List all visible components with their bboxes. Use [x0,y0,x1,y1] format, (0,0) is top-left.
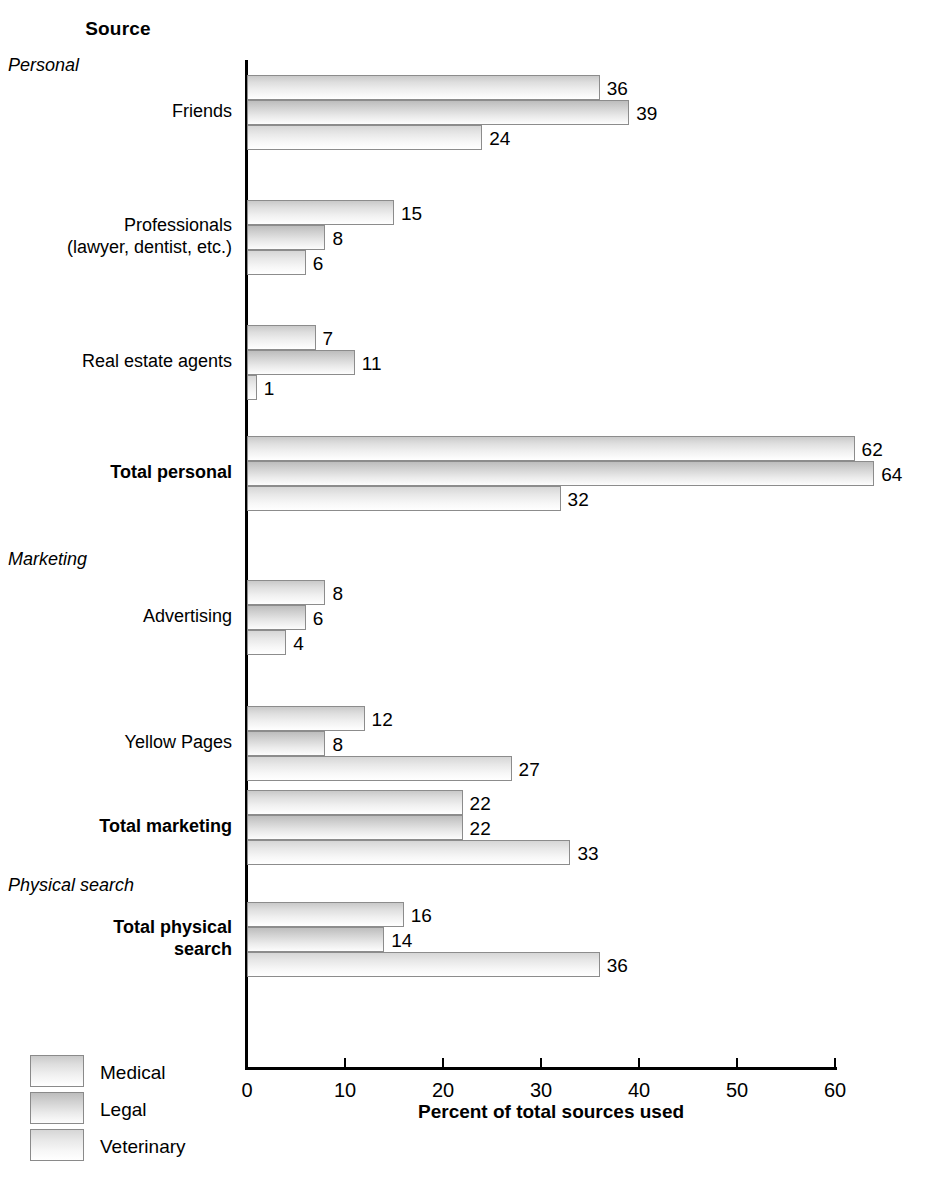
bar-value-label: 36 [607,956,628,975]
bar-legal-4 [247,605,306,630]
bar-value-label: 15 [401,204,422,223]
bar-value-label: 33 [577,844,598,863]
legend-swatch-veterinary [30,1129,84,1161]
x-axis-line [245,1067,837,1070]
bar-value-label: 6 [313,254,324,273]
x-axis-tick [442,1058,444,1067]
bar-veterinary-5 [247,756,512,781]
bar-value-label: 6 [313,609,324,628]
bar-legal-1 [247,225,325,250]
bar-value-label: 24 [489,129,510,148]
bar-value-label: 11 [362,354,382,373]
legend-label-veterinary: Veterinary [100,1137,186,1156]
plot-area: 0102030405060Percent of total sources us… [0,0,937,1199]
bar-medical-3 [247,436,855,461]
bar-value-label: 1 [264,379,275,398]
bar-medical-6 [247,790,463,815]
legend-label-legal: Legal [100,1100,147,1119]
x-axis-tick [540,1058,542,1067]
x-axis-tick [344,1058,346,1067]
x-axis-tick-label: 30 [521,1079,561,1102]
x-axis-tick-label: 0 [227,1079,267,1102]
bar-value-label: 4 [293,634,304,653]
bar-veterinary-1 [247,250,306,275]
bar-value-label: 22 [470,794,491,813]
bar-veterinary-2 [247,375,257,400]
x-axis-tick-label: 20 [423,1079,463,1102]
bar-legal-0 [247,100,629,125]
bar-legal-6 [247,815,463,840]
bar-value-label: 8 [332,735,343,754]
x-axis-tick-label: 10 [325,1079,365,1102]
bar-medical-0 [247,75,600,100]
bar-veterinary-0 [247,125,482,150]
x-axis-tick [736,1058,738,1067]
bar-value-label: 32 [568,490,589,509]
x-axis-tick-label: 50 [717,1079,757,1102]
legend-swatch-legal [30,1092,84,1124]
bar-legal-7 [247,927,384,952]
bar-value-label: 27 [519,760,540,779]
bar-value-label: 36 [607,79,628,98]
bar-medical-4 [247,580,325,605]
legend-swatch-medical [30,1055,84,1087]
bar-value-label: 14 [391,931,412,950]
legend-label-medical: Medical [100,1063,165,1082]
x-axis-tick-label: 40 [619,1079,659,1102]
bar-legal-2 [247,350,355,375]
x-axis-tick-label: 60 [815,1079,855,1102]
x-axis-title: Percent of total sources used [418,1101,684,1123]
bar-medical-1 [247,200,394,225]
bar-veterinary-6 [247,840,570,865]
bar-value-label: 16 [411,906,432,925]
bar-value-label: 7 [323,329,334,348]
bar-value-label: 39 [636,104,657,123]
bar-veterinary-3 [247,486,561,511]
bar-medical-7 [247,902,404,927]
bar-legal-5 [247,731,325,756]
bar-medical-2 [247,325,316,350]
bar-value-label: 8 [332,229,343,248]
bar-legal-3 [247,461,874,486]
bar-chart: Source Personal Marketing Physical searc… [0,0,937,1199]
bar-value-label: 62 [862,440,883,459]
bar-value-label: 64 [881,465,902,484]
bar-value-label: 22 [470,819,491,838]
bar-value-label: 8 [332,584,343,603]
bar-value-label: 12 [372,710,393,729]
bar-veterinary-7 [247,952,600,977]
bar-medical-5 [247,706,365,731]
bar-veterinary-4 [247,630,286,655]
x-axis-tick [834,1058,836,1067]
x-axis-tick [638,1058,640,1067]
